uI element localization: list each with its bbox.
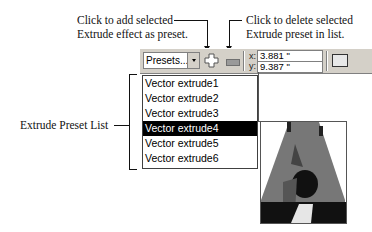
folder-icon[interactable]	[332, 54, 348, 67]
presets-combo-value: Presets...	[146, 55, 188, 66]
list-item[interactable]: Vector extrude1	[143, 76, 257, 91]
list-item-selected[interactable]: Vector extrude4	[143, 121, 257, 136]
extrude-toolbar: Presets... x: 3.881 " y: 9.387 "	[140, 48, 372, 74]
plus-icon[interactable]	[204, 53, 219, 68]
extrude-preview-image	[260, 121, 347, 224]
callout-text: Extrude Preset List	[20, 119, 108, 131]
callout-add-preset: Click to add selected Extrude effect as …	[77, 13, 188, 41]
y-label: y:	[249, 61, 256, 71]
bracket-line	[129, 169, 137, 170]
bracket-line	[129, 74, 130, 170]
leader-line	[114, 125, 129, 126]
leader-line	[207, 20, 208, 47]
toolbar-separator	[326, 51, 328, 71]
x-label: x:	[249, 51, 256, 61]
bracket-line	[129, 74, 137, 75]
presets-combo[interactable]: Presets...	[143, 52, 200, 69]
leader-line	[229, 20, 230, 47]
minus-icon[interactable]	[226, 59, 240, 66]
list-item[interactable]: Vector extrude3	[143, 106, 257, 121]
chevron-down-icon[interactable]	[187, 53, 199, 68]
connector-line	[258, 72, 259, 122]
leader-line	[174, 20, 207, 21]
callout-line-2: Extrude preset in list.	[246, 27, 353, 41]
callout-line-2: Extrude effect as preset.	[77, 27, 188, 41]
list-item[interactable]: Vector extrude5	[143, 136, 257, 151]
callout-preset-list: Extrude Preset List	[20, 118, 108, 132]
callout-line-1: Click to add selected	[77, 13, 188, 27]
list-item[interactable]: Vector extrude2	[143, 91, 257, 106]
leader-line	[229, 20, 242, 21]
callout-delete-preset: Click to delete selected Extrude preset …	[246, 13, 353, 41]
toolbar-separator	[243, 51, 245, 71]
list-item[interactable]: Vector extrude6	[143, 151, 257, 166]
preset-list[interactable]: Vector extrude1 Vector extrude2 Vector e…	[142, 75, 258, 169]
callout-line-1: Click to delete selected	[246, 13, 353, 27]
y-coordinate-field[interactable]: 9.387 "	[257, 61, 323, 73]
